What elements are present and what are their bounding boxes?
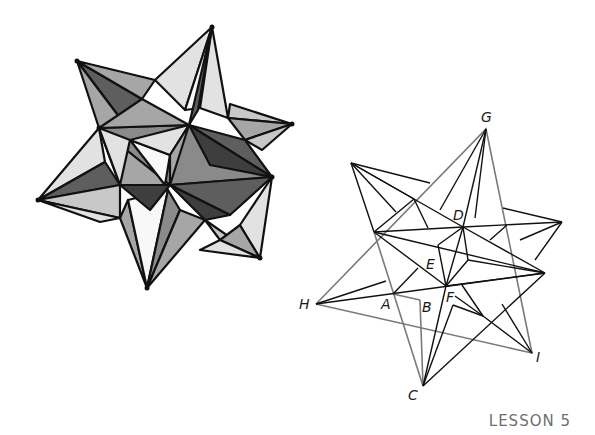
vertex-label-b: B [422, 300, 432, 314]
vertex-label-c: C [408, 388, 418, 402]
labeled-line-diagram [0, 0, 595, 435]
vertex-label-e: E [426, 257, 435, 271]
vertex-label-d: D [453, 208, 464, 222]
lesson-label: LESSON 5 [489, 412, 571, 430]
vertex-label-g: G [481, 110, 492, 124]
vertex-label-f: F [446, 290, 454, 304]
vertex-label-h: H [299, 297, 310, 311]
vertex-label-i: I [536, 350, 540, 364]
vertex-label-a: A [381, 297, 391, 311]
